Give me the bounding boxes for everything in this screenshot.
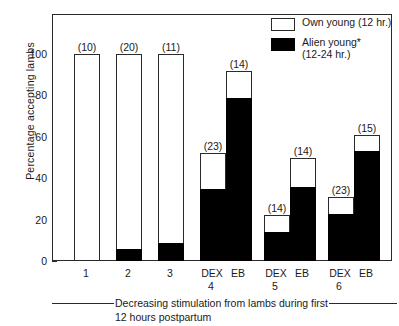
bar: (20)	[116, 54, 142, 261]
caption-line-1: Decreasing stimulation from lambs during…	[52, 297, 397, 310]
legend-item-own-young: Own young (12 hr.)	[271, 17, 399, 31]
bar-sample-size-label: (14)	[294, 145, 313, 157]
caption-text-2: 12 hours postpartum	[115, 311, 397, 324]
legend-swatch-filled-icon	[271, 38, 295, 51]
x-tick-label-group: 1	[83, 267, 89, 279]
bar-segment-alien-young	[200, 189, 226, 261]
x-axis-caption: Decreasing stimulation from lambs during…	[52, 297, 397, 324]
caption-text-1: Decreasing stimulation from lambs during…	[115, 297, 328, 310]
y-tick-label: 80	[21, 89, 47, 101]
bar-sample-size-label: (20)	[120, 41, 139, 53]
bar-segment-alien-young	[226, 98, 252, 262]
bar-sample-size-label: (23)	[332, 184, 351, 196]
bar-segment-alien-young	[290, 187, 316, 262]
x-tick-label-eb: EB	[231, 267, 245, 279]
bar-segment-alien-young	[328, 214, 354, 262]
caption-rule-left	[52, 303, 114, 304]
legend-label-alien-young: Alien young* (12-24 hr.)	[302, 37, 361, 60]
bar-segment-alien-young	[158, 243, 184, 262]
y-tick-label: 0	[21, 255, 47, 267]
bar-sample-size-label: (14)	[230, 58, 249, 70]
legend-label-alien-young-line2: (12-24 hr.)	[302, 48, 350, 60]
bar-segment-alien-young	[354, 151, 380, 261]
bar-sample-size-label: (14)	[268, 202, 287, 214]
x-group-number: 6	[336, 280, 342, 292]
bar: (15)	[354, 135, 380, 261]
x-tick-label-eb: EB	[295, 267, 309, 279]
x-tick-label-dex: DEX	[265, 267, 287, 279]
x-tick-label-group: 2	[125, 267, 131, 279]
legend-item-alien-young: Alien young* (12-24 hr.)	[271, 37, 399, 60]
bar: (14)	[290, 158, 316, 262]
legend-label-alien-young-line1: Alien young*	[302, 36, 361, 48]
y-tick-label: 60	[21, 131, 47, 143]
x-group-number: 4	[208, 280, 214, 292]
y-tick-label: 40	[21, 172, 47, 184]
chart-legend: Own young (12 hr.) Alien young* (12-24 h…	[271, 17, 399, 66]
legend-label-own-young: Own young (12 hr.)	[302, 17, 391, 29]
y-tick-label: 100	[21, 48, 47, 60]
y-tick-label: 20	[21, 214, 47, 226]
bar: (10)	[74, 54, 100, 261]
x-tick-label-dex: DEX	[201, 267, 223, 279]
bar-segment-alien-young	[116, 249, 142, 261]
bar: (14)	[226, 71, 252, 261]
bar: (14)	[264, 215, 290, 261]
y-tick-mark	[52, 261, 57, 262]
caption-rule-right	[329, 303, 397, 304]
bar-sample-size-label: (15)	[358, 122, 377, 134]
bar-sample-size-label: (23)	[204, 140, 223, 152]
figure-container: Percentage accepting lambs 100806040200 …	[0, 0, 399, 326]
bar: (23)	[200, 153, 226, 261]
x-tick-label-group: 3	[167, 267, 173, 279]
legend-swatch-open-icon	[271, 18, 295, 31]
bar-sample-size-label: (11)	[162, 41, 180, 53]
x-tick-label-dex: DEX	[329, 267, 351, 279]
x-tick-label-eb: EB	[359, 267, 373, 279]
x-group-number: 5	[272, 280, 278, 292]
bar: (11)	[158, 54, 184, 261]
bar-segment-alien-young	[264, 232, 290, 261]
bar-sample-size-label: (10)	[78, 41, 97, 53]
plot-area: (10)(20)(11)(23)(14)(14)(14)(23)(15) Own…	[52, 14, 392, 261]
bar: (23)	[328, 197, 354, 261]
